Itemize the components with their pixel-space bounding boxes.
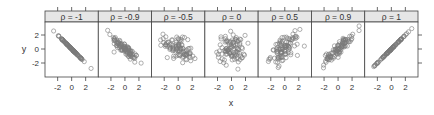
y-tick-label: -2 — [32, 59, 40, 68]
y-tick-label: 2 — [35, 31, 40, 40]
y-axis-label: y — [22, 44, 27, 54]
panel-strip-label: ρ = 0 — [222, 12, 242, 22]
x-tick-label: 0 — [389, 83, 394, 92]
panel: ρ = -0.5-202 — [152, 7, 205, 92]
x-tick-label: 2 — [243, 83, 248, 92]
x-tick-label: 0 — [69, 83, 74, 92]
x-tick-label: 0 — [229, 83, 234, 92]
x-tick-label: 0 — [176, 83, 181, 92]
x-tick-label: -2 — [267, 83, 275, 92]
x-tick-label: 0 — [336, 83, 341, 92]
panel-strip-label: ρ = -1 — [61, 12, 83, 22]
x-tick-label: -2 — [107, 83, 115, 92]
x-tick-label: 2 — [350, 83, 355, 92]
panel: ρ = 1-202 — [365, 7, 418, 92]
x-tick-label: 2 — [297, 83, 302, 92]
x-axis-label: x — [229, 98, 234, 108]
panel-strip-label: ρ = -0.5 — [164, 12, 193, 22]
panel: ρ = 0.9-202 — [311, 7, 364, 92]
x-tick-label: -2 — [54, 83, 62, 92]
x-tick-label: 2 — [83, 83, 88, 92]
panel: ρ = 0.5-202 — [258, 7, 311, 92]
panel: ρ = 0-202 — [205, 7, 258, 92]
x-tick-label: 0 — [123, 83, 128, 92]
panels-group: ρ = -1-202ρ = -0.9-202ρ = -0.5-202ρ = 0-… — [45, 7, 418, 92]
panel-strip-label: ρ = 0.9 — [325, 12, 352, 22]
x-tick-label: -2 — [321, 83, 329, 92]
panel-strip-label: ρ = -0.9 — [110, 12, 139, 22]
x-tick-label: -2 — [214, 83, 222, 92]
panel: ρ = -1-202 — [45, 7, 98, 92]
panel: ρ = -0.9-202 — [98, 7, 151, 92]
x-tick-label: 2 — [403, 83, 408, 92]
panel-strip-label: ρ = 1 — [382, 12, 402, 22]
x-tick-label: 0 — [283, 83, 288, 92]
x-tick-label: 2 — [137, 83, 142, 92]
panel-strip-label: ρ = 0.5 — [272, 12, 299, 22]
x-tick-label: -2 — [374, 83, 382, 92]
y-tick-label: 0 — [35, 45, 40, 54]
x-tick-label: 2 — [190, 83, 195, 92]
correlation-scatter-trellis: ρ = -1-202ρ = -0.9-202ρ = -0.5-202ρ = 0-… — [0, 0, 434, 115]
x-tick-label: -2 — [161, 83, 169, 92]
